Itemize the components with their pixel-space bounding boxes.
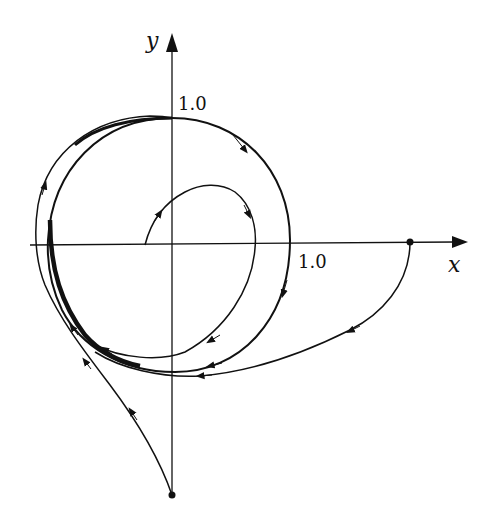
x-tick-label: 1.0: [298, 251, 327, 272]
trajectory-bottom-start: [36, 116, 172, 495]
y-axis: [166, 33, 178, 495]
direction-arrow-icon: [154, 213, 160, 222]
direction-arrow-icon: [210, 335, 220, 341]
y-axis-label: y: [145, 28, 159, 53]
direction-arrow-icon: [85, 361, 91, 369]
x-axis-label: x: [448, 252, 461, 277]
y-tick-label: 1.0: [178, 93, 207, 114]
trajectory-inner-spiral: [95, 185, 255, 357]
x-axis-arrow-icon: [452, 236, 468, 248]
x-axis: [30, 236, 468, 248]
phase-portrait-figure: y x 1.0 1.0: [0, 0, 493, 521]
y-axis-arrow-icon: [166, 33, 178, 52]
